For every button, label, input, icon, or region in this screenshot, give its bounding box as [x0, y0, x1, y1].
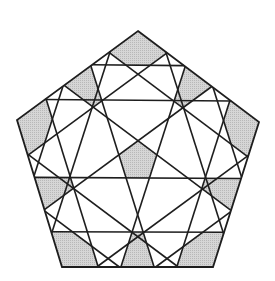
chord-near-outer-4 — [28, 53, 167, 155]
chord-far-outer-4 — [97, 155, 249, 267]
chord-near-outer-0 — [109, 52, 248, 156]
chord-near-inner-0 — [64, 85, 231, 210]
corner-shade-2 — [177, 232, 224, 267]
chord-far-outer-0 — [27, 154, 178, 267]
pentagon-diagram — [0, 0, 275, 281]
chord-far-outer-2 — [45, 100, 231, 102]
corner-shade-3 — [51, 232, 98, 267]
chord-near-inner-4 — [44, 87, 211, 210]
